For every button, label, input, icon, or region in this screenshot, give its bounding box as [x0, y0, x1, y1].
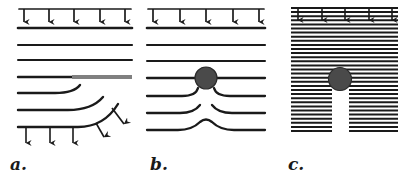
top-load-arrows [24, 9, 125, 22]
panel-b: b. [136, 0, 276, 175]
top-load-arrows [298, 8, 392, 20]
rigid-inclusion [195, 67, 217, 89]
deflected-layer-line [147, 88, 198, 96]
rigid-inclusion [329, 68, 352, 91]
deflected-arrow [112, 108, 124, 124]
deflected-layer-line [212, 105, 265, 113]
deflected-layer-line [18, 97, 103, 110]
panel-c: c. [276, 0, 413, 175]
deflected-layer-line [18, 85, 80, 93]
bottom-boundary-line [18, 104, 118, 127]
deflected-layer-line [147, 105, 200, 113]
deflected-layer-line [147, 120, 265, 131]
panel-a-label: a. [10, 156, 27, 173]
bottom-load-arrows [26, 127, 73, 143]
panel-c-label: c. [288, 156, 304, 173]
panel-a-diagram [0, 0, 140, 175]
top-load-arrows [153, 9, 259, 22]
figure-root: a. [0, 0, 413, 175]
panel-b-diagram [136, 0, 276, 175]
panel-a: a. [0, 0, 140, 175]
panel-c-diagram [276, 0, 413, 175]
deflected-layer-line [214, 88, 265, 96]
panel-b-label: b. [150, 156, 168, 173]
deflected-arrow [96, 123, 104, 137]
